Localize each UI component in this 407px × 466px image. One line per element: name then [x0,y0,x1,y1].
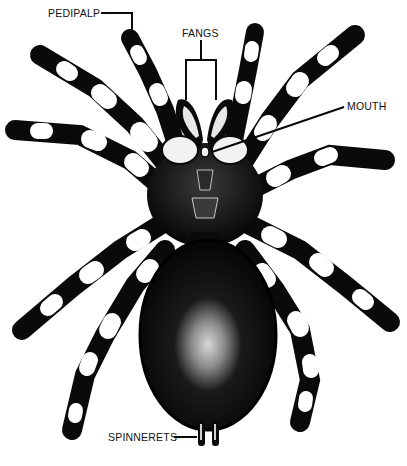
tarantula-diagram: Tarantula, ventral view [0,0,407,466]
fangs-bracket [186,60,216,100]
label-spinnerets: SPINNERETS [108,432,177,443]
label-pedipalp: PEDIPALP [48,8,100,19]
label-fangs: FANGS [182,28,219,39]
tarantula-illustration [0,0,407,466]
label-mouth: MOUTH [347,101,387,112]
